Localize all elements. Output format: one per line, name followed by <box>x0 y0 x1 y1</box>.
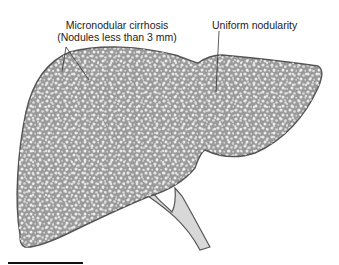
label-uniform-nodularity: Uniform nodularity <box>212 19 297 31</box>
label-micronodular-line1: Micronodular cirrhosis <box>52 19 182 31</box>
vessel <box>148 188 210 250</box>
liver-figure: Micronodular cirrhosis (Nodules less tha… <box>0 0 339 265</box>
label-micronodular-cirrhosis: Micronodular cirrhosis (Nodules less tha… <box>52 19 182 43</box>
liver <box>17 47 322 247</box>
scale-bar <box>8 262 83 264</box>
label-micronodular-line2: (Nodules less than 3 mm) <box>52 31 182 43</box>
